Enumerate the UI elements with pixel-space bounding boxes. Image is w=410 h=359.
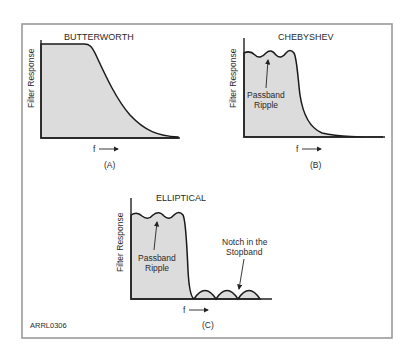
filter-response-figure: BUTTERWORTH Filter Response f (A) CHEBYS… — [0, 0, 410, 359]
annotation-line2: Stopband — [226, 247, 263, 257]
panel-title: ELLIPTICAL — [156, 193, 206, 203]
annotation-line1: Passband — [138, 253, 176, 263]
butterworth-response-curve — [41, 44, 178, 138]
panel-title: BUTTERWORTH — [64, 32, 134, 42]
panel-chebyshev: CHEBYSHEV Filter Response Passband Rippl… — [228, 32, 385, 170]
annotation-line1: Passband — [247, 90, 285, 100]
panel-title: CHEBYSHEV — [278, 32, 334, 42]
annotation-line2: Ripple — [145, 263, 169, 273]
notch-pointer-icon — [239, 259, 244, 289]
y-axis-label: Filter Response — [228, 48, 238, 108]
x-axis-label: f — [93, 144, 96, 154]
y-axis-label: Filter Response — [115, 212, 125, 272]
x-axis-label: f — [183, 305, 186, 315]
panel-caption: (B) — [310, 160, 322, 170]
figure-id-label: ARRL0306 — [30, 321, 67, 330]
panel-butterworth: BUTTERWORTH Filter Response f (A) — [26, 32, 180, 170]
panel-elliptical: ELLIPTICAL Filter Response Passband Ripp… — [115, 193, 272, 330]
x-axis-label: f — [296, 144, 299, 154]
annotation-line2: Ripple — [254, 100, 278, 110]
panel-caption: (A) — [104, 160, 116, 170]
annotation-line1: Notch in the — [222, 237, 268, 247]
y-axis-label: Filter Response — [26, 48, 36, 108]
panel-caption: (C) — [202, 320, 214, 330]
